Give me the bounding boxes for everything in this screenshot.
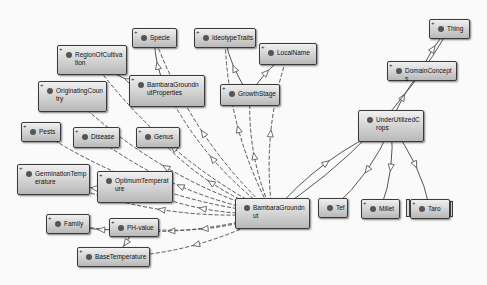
- expand-plus-icon[interactable]: +: [99, 172, 103, 178]
- class-circle-icon: [141, 35, 147, 41]
- node-germinationtemperature[interactable]: +GerminationTemperature: [17, 164, 90, 195]
- node-label: LocalName: [277, 49, 314, 57]
- node-label: Tef: [336, 204, 345, 212]
- class-circle-icon: [82, 134, 88, 140]
- node-originatingcountry[interactable]: +OriginatingCountry: [38, 81, 107, 112]
- arrowhead-icon: [176, 182, 185, 190]
- node-genus[interactable]: +Genus: [136, 127, 180, 148]
- expand-plus-icon[interactable]: +: [261, 44, 265, 50]
- node-label: OriginatingCountry: [56, 87, 104, 103]
- arrowhead-icon: [98, 227, 105, 233]
- edge-bambaragroundnut-bambaragroundnutproperties: [167, 91, 273, 214]
- expand-plus-icon[interactable]: +: [111, 219, 115, 225]
- arrowhead-icon: [199, 205, 207, 212]
- node-label: GrowthStage: [238, 90, 277, 98]
- expand-plus-icon[interactable]: +: [196, 29, 200, 35]
- node-thing[interactable]: +Thing: [429, 19, 470, 39]
- node-label: GerminationTemperature: [35, 170, 87, 186]
- arrowhead-icon: [192, 241, 200, 249]
- expand-plus-icon[interactable]: +: [59, 46, 63, 52]
- class-circle-icon: [55, 221, 61, 227]
- node-family[interactable]: +Family: [46, 214, 90, 234]
- expand-plus-icon[interactable]: +: [75, 128, 79, 134]
- node-label: UnderUtilizedCrops: [376, 116, 421, 132]
- node-label: IdeotypeTraits: [212, 34, 253, 42]
- class-circle-icon: [106, 178, 112, 184]
- class-circle-icon: [26, 171, 32, 177]
- node-tef[interactable]: Tef: [318, 198, 348, 218]
- class-circle-icon: [118, 225, 124, 231]
- expand-plus-icon[interactable]: +: [363, 200, 367, 206]
- class-circle-icon: [86, 254, 92, 260]
- arrowhead-icon: [251, 152, 258, 160]
- arrowhead-icon: [158, 206, 166, 213]
- node-optimumtemperature[interactable]: +OptimumTemperature: [97, 171, 173, 203]
- expand-plus-icon[interactable]: +: [131, 76, 135, 82]
- class-circle-icon: [30, 129, 36, 135]
- expand-plus-icon[interactable]: +: [48, 215, 52, 221]
- expand-plus-icon[interactable]: +: [23, 123, 27, 129]
- class-circle-icon: [419, 206, 425, 212]
- arrowhead-icon: [411, 160, 419, 169]
- expand-plus-icon[interactable]: +: [431, 20, 435, 26]
- class-circle-icon: [145, 134, 151, 140]
- node-basetemperature[interactable]: +BaseTemperature: [77, 247, 150, 267]
- node-taro[interactable]: +Taro: [410, 199, 450, 219]
- arrowhead-icon: [201, 225, 209, 232]
- class-circle-icon: [66, 52, 72, 58]
- node-label: DomainConcepts: [405, 67, 454, 83]
- arrowhead-icon: [230, 64, 238, 73]
- node-label: Millet: [379, 205, 397, 213]
- node-phvalue[interactable]: +PH-value: [109, 218, 159, 237]
- node-regionofcultivation[interactable]: +RegionOfCultivation: [57, 45, 127, 75]
- node-label: OptimumTemperature: [115, 177, 170, 193]
- arrowhead-icon: [168, 228, 175, 234]
- class-circle-icon: [47, 88, 53, 94]
- node-label: Family: [64, 220, 87, 228]
- node-label: BaseTemperature: [95, 253, 147, 261]
- node-label: BambaraGroundnut: [253, 204, 307, 220]
- expand-plus-icon[interactable]: +: [134, 29, 138, 35]
- arrowhead-icon: [322, 158, 331, 167]
- class-circle-icon: [244, 205, 250, 211]
- class-circle-icon: [370, 206, 376, 212]
- node-millet[interactable]: +Millet: [361, 199, 400, 219]
- arrowhead-icon: [154, 62, 161, 70]
- arrowhead-icon: [199, 129, 208, 138]
- node-label: Disease: [91, 133, 117, 141]
- node-domainconcepts[interactable]: +DomainConcepts: [387, 61, 457, 81]
- expand-plus-icon[interactable]: +: [222, 85, 226, 91]
- expand-plus-icon[interactable]: +: [79, 248, 83, 254]
- node-specie[interactable]: +Specie: [132, 28, 177, 48]
- node-growthstage[interactable]: +GrowthStage: [220, 84, 280, 106]
- node-ideotypetraits[interactable]: +IdeotypeTraits: [194, 28, 256, 48]
- class-circle-icon: [327, 205, 333, 211]
- class-circle-icon: [438, 26, 444, 32]
- node-pests[interactable]: +Pests: [21, 122, 61, 142]
- node-label: Pests: [39, 128, 58, 136]
- node-label: PH-value: [127, 224, 156, 232]
- node-label: Specie: [150, 34, 174, 42]
- expand-plus-icon[interactable]: +: [138, 128, 142, 134]
- expand-plus-icon[interactable]: +: [412, 200, 416, 206]
- class-circle-icon: [203, 35, 209, 41]
- node-localname[interactable]: +LocalName: [259, 43, 317, 65]
- class-circle-icon: [396, 68, 402, 74]
- arrowhead-icon: [429, 44, 438, 53]
- node-bambaragroundnutproperties[interactable]: +BambaraGroundnutProperties: [129, 75, 205, 107]
- expand-plus-icon[interactable]: +: [40, 82, 44, 88]
- node-underutilizedcrops[interactable]: UnderUtilizedCrops: [358, 110, 424, 142]
- expand-plus-icon[interactable]: +: [19, 165, 23, 171]
- ontology-graph-canvas[interactable]: +Specie+IdeotypeTraits+LocalName+RegionO…: [0, 0, 487, 285]
- node-bambaragroundnut[interactable]: BambaraGroundnut: [235, 198, 310, 229]
- arrowhead-icon: [363, 165, 372, 174]
- arrowhead-icon: [235, 125, 243, 133]
- node-disease[interactable]: +Disease: [73, 127, 120, 148]
- class-circle-icon: [229, 91, 235, 97]
- expand-plus-icon[interactable]: +: [389, 62, 393, 68]
- class-circle-icon: [268, 50, 274, 56]
- node-label: Taro: [428, 205, 447, 213]
- class-circle-icon: [367, 117, 373, 123]
- arrowhead-icon: [387, 164, 394, 172]
- node-label: BambaraGroundnutProperties: [147, 81, 202, 97]
